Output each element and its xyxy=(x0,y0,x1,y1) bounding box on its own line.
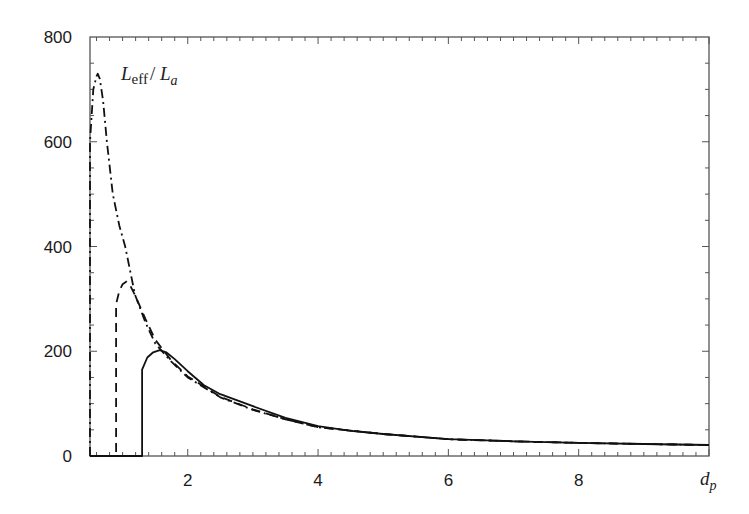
y-axis-tick-labels: 0200400600800 xyxy=(44,28,72,466)
chart: 0200400600800 2468 Leff/ La dp xyxy=(0,0,749,514)
series-dashed-line xyxy=(90,282,709,456)
x-tick-label: 4 xyxy=(313,471,322,490)
x-tick-label: 2 xyxy=(183,471,192,490)
y-tick-label: 400 xyxy=(44,238,72,257)
plot-frame xyxy=(90,37,709,456)
y-tick-label: 200 xyxy=(44,342,72,361)
axis-ticks xyxy=(90,37,709,456)
y-tick-label: 0 xyxy=(63,447,72,466)
series-dash-dot-line xyxy=(90,74,709,456)
y-tick-label: 800 xyxy=(44,28,72,47)
x-tick-label: 6 xyxy=(444,471,453,490)
x-tick-label: 8 xyxy=(574,471,583,490)
series-solid-line xyxy=(90,350,709,456)
x-axis-tick-labels: 2468 xyxy=(183,471,583,490)
y-axis-annotation: Leff/ La xyxy=(120,63,178,88)
y-tick-label: 600 xyxy=(44,133,72,152)
x-axis-label: dp xyxy=(700,468,717,493)
data-series xyxy=(90,74,709,456)
